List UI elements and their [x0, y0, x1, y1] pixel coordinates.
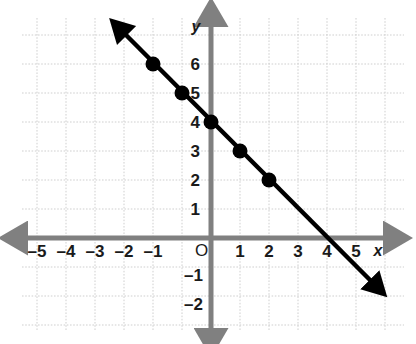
- data-point: [175, 86, 190, 101]
- x-tick-label: 1: [235, 242, 244, 261]
- y-tick-label: 1: [191, 200, 200, 219]
- data-point: [262, 173, 277, 188]
- x-tick-label: 4: [322, 242, 332, 261]
- data-point: [204, 115, 219, 130]
- data-point: [233, 144, 248, 159]
- x-tick-label: 5: [351, 242, 360, 261]
- graph-canvas: –5 –4 –3 –2 –1 1 2 3 4 5 6 5 4 3 2 1 –1 …: [0, 0, 416, 344]
- graph-background: [0, 0, 416, 344]
- x-tick-label: –4: [57, 242, 76, 261]
- x-axis-label: x: [373, 242, 384, 259]
- y-tick-label: 3: [191, 142, 200, 161]
- y-tick-label: 2: [191, 171, 200, 190]
- coordinate-plane-graph: –5 –4 –3 –2 –1 1 2 3 4 5 6 5 4 3 2 1 –1 …: [0, 0, 416, 344]
- y-tick-label: –1: [184, 266, 203, 285]
- origin-label: O: [195, 241, 208, 260]
- y-tick-label: 6: [191, 55, 200, 74]
- x-tick-label: 2: [264, 242, 273, 261]
- data-point: [146, 57, 161, 72]
- x-tick-label: 3: [293, 242, 302, 261]
- y-tick-label: 4: [191, 113, 201, 132]
- x-tick-label: –1: [144, 242, 163, 261]
- x-tick-label: –2: [115, 242, 134, 261]
- y-axis-label: y: [191, 18, 202, 35]
- y-tick-label: –2: [184, 295, 203, 314]
- x-tick-label: –3: [86, 242, 105, 261]
- x-tick-label: –5: [28, 242, 47, 261]
